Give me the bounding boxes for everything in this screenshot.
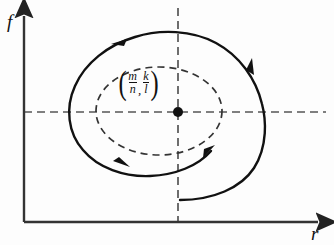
close-paren: ) (150, 69, 158, 97)
equilibrium-point-label: ( m n , k l ) (117, 69, 160, 97)
x-denominator: n (129, 82, 137, 95)
y-coordinate-fraction: k l (142, 70, 149, 95)
outer-solid-spiral (69, 32, 265, 200)
equilibrium-point-dot (173, 107, 183, 117)
x-coordinate-fraction: m n (127, 70, 138, 95)
arrow-bottom-left-icon (113, 157, 130, 167)
figure-canvas: f r ( m n , k l ) (0, 0, 334, 245)
y-denominator: l (143, 82, 148, 95)
x-numerator: m (127, 70, 138, 82)
flow-arrowheads (111, 39, 254, 167)
x-axis-label: r (311, 224, 318, 243)
open-paren: ( (119, 69, 127, 97)
y-axis-label: f (7, 12, 12, 31)
phase-plane-diagram (0, 0, 334, 245)
axes-group (24, 16, 318, 222)
y-numerator: k (142, 70, 149, 82)
